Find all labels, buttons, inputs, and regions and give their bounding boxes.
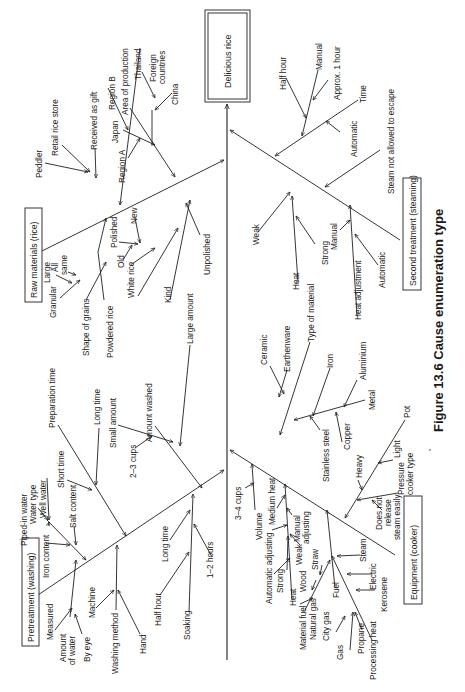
svg-text:Steam: Steam <box>359 538 368 562</box>
svg-text:Soaking: Soaking <box>183 610 192 640</box>
svg-text:Gas: Gas <box>336 645 345 660</box>
branch-pretreatment: Piped-in water Water type Well water Iro… <box>20 293 215 674</box>
bone-raw-materials <box>40 160 224 252</box>
svg-text:Large amount: Large amount <box>186 293 195 344</box>
svg-text:Old: Old <box>117 255 126 268</box>
svg-text:Volume: Volume <box>255 512 264 540</box>
svg-text:Heat adjustment: Heat adjustment <box>354 260 363 320</box>
svg-text:Strong: Strong <box>321 240 330 265</box>
svg-text:Water type: Water type <box>29 484 38 524</box>
svg-text:Raw materials (rice): Raw materials (rice) <box>29 221 39 298</box>
svg-text:Piped-in water: Piped-in water <box>20 493 29 546</box>
svg-text:White rice: White rice <box>127 261 136 298</box>
svg-text:Automatic: Automatic <box>350 121 359 157</box>
svg-text:Material fuel: Material fuel <box>299 605 308 650</box>
bone-second-treatment <box>230 130 400 240</box>
svg-text:Long time: Long time <box>161 526 170 562</box>
svg-text:steam easily: steam easily <box>393 494 402 540</box>
svg-text:Powdered rice: Powdered rice <box>106 305 115 358</box>
svg-text:Automatic: Automatic <box>378 252 387 288</box>
svg-text:Iron content: Iron content <box>42 534 51 578</box>
svg-text:Long time: Long time <box>93 389 102 425</box>
svg-text:Medium heat: Medium heat <box>268 477 277 525</box>
svg-text:New: New <box>130 208 139 224</box>
svg-text:Does not: Does not <box>375 497 384 530</box>
svg-text:2–3 cups: 2–3 cups <box>129 445 138 478</box>
svg-text:Washing method: Washing method <box>111 612 120 674</box>
svg-text:Processing heat: Processing heat <box>369 621 378 680</box>
svg-text:Light: Light <box>393 440 402 458</box>
svg-text:Propane: Propane <box>357 623 366 654</box>
svg-text:Half hour: Half hour <box>279 57 288 90</box>
svg-text:Pressure: Pressure <box>397 462 406 495</box>
svg-text:Straw: Straw <box>311 549 320 570</box>
svg-text:Region B: Region B <box>108 76 117 110</box>
svg-text:of water: of water <box>68 636 77 665</box>
svg-text:Retail rice store: Retail rice store <box>51 99 60 156</box>
svg-text:Natural gas: Natural gas <box>309 598 318 640</box>
svg-text:Peddler: Peddler <box>35 150 44 178</box>
svg-text:1–2 hours: 1–2 hours <box>206 542 215 578</box>
svg-text:countries: countries <box>158 51 167 84</box>
svg-text:Unpolished: Unpolished <box>203 234 212 275</box>
svg-text:Region A: Region A <box>118 149 127 183</box>
svg-text:China: China <box>171 83 180 105</box>
svg-text:Small amount: Small amount <box>109 397 118 448</box>
svg-text:release: release <box>384 499 393 526</box>
svg-text:Shape of grains: Shape of grains <box>82 299 91 356</box>
svg-text:3–4 cups: 3–4 cups <box>234 487 243 520</box>
svg-text:Automatic adjusting: Automatic adjusting <box>265 532 274 604</box>
fishbone-diagram: Delicious rice Raw materials (rice) Seco… <box>0 0 465 692</box>
svg-text:All: All <box>51 263 60 272</box>
svg-text:City gas: City gas <box>322 611 331 641</box>
svg-text:Copper: Copper <box>343 423 352 450</box>
svg-text:Type of material: Type of material <box>307 284 316 342</box>
branch-second-treatment: Half hour Manual Approx. 1 hour Automati… <box>252 43 396 320</box>
svg-text:Manual: Manual <box>293 515 302 542</box>
svg-text:Earthenware: Earthenware <box>283 325 292 372</box>
svg-text:Preparation time: Preparation time <box>48 367 57 428</box>
svg-text:Aluminium: Aluminium <box>359 342 368 380</box>
svg-text:Kerosene: Kerosene <box>380 577 389 612</box>
svg-text:Time: Time <box>359 85 368 103</box>
category-raw-materials: Raw materials (rice) <box>25 208 42 302</box>
svg-text:Short time: Short time <box>57 450 66 488</box>
svg-text:Equipment (cooker): Equipment (cooker) <box>409 525 419 600</box>
svg-text:cooker type: cooker type <box>406 452 415 495</box>
svg-text:Manual: Manual <box>330 223 339 250</box>
svg-text:Polished: Polished <box>110 216 119 248</box>
svg-text:Measured: Measured <box>46 603 55 640</box>
svg-text:Well water: Well water <box>39 480 48 518</box>
svg-text:Foreign: Foreign <box>149 54 158 82</box>
svg-text:Machine: Machine <box>88 587 97 618</box>
svg-text:Weak: Weak <box>252 223 261 245</box>
branch-equipment: 3–4 cups Volume Medium heat Automatic ad… <box>234 284 415 680</box>
svg-text:Japan: Japan <box>111 120 120 143</box>
svg-text:By eye: By eye <box>83 637 92 662</box>
category-pretreatment: Pretreatment (washing) <box>22 538 39 646</box>
svg-text:Manual: Manual <box>315 43 324 70</box>
svg-text:Heat: Heat <box>289 588 298 606</box>
svg-text:Pot: Pot <box>403 405 412 418</box>
svg-text:Granular: Granular <box>49 286 58 318</box>
svg-text:Metal: Metal <box>368 390 377 410</box>
category-equipment: Equipment (cooker) <box>404 496 422 604</box>
stray-dot <box>429 449 431 451</box>
svg-text:adjusting: adjusting <box>302 511 311 544</box>
svg-text:Salt content: Salt content <box>69 484 78 528</box>
svg-text:Ceramic: Ceramic <box>260 335 269 365</box>
svg-text:Amount washed: Amount washed <box>145 383 154 442</box>
svg-text:Received as gift: Received as gift <box>90 91 99 150</box>
svg-text:Amount: Amount <box>59 633 68 662</box>
svg-text:Weak: Weak <box>295 543 304 565</box>
svg-text:Thailand: Thailand <box>134 48 143 80</box>
figure-caption: Figure 13.6 Cause enumeration type <box>431 209 446 432</box>
svg-text:Hand: Hand <box>139 634 148 654</box>
svg-text:Electric: Electric <box>369 563 378 590</box>
svg-text:Second treatment (steaming): Second treatment (steaming) <box>408 175 418 286</box>
svg-text:Kind: Kind <box>164 286 173 303</box>
svg-text:Strong: Strong <box>276 568 285 593</box>
svg-text:Stainless steel: Stainless steel <box>322 429 331 482</box>
svg-text:Half hour: Half hour <box>154 593 163 626</box>
svg-text:Iron: Iron <box>326 353 335 368</box>
